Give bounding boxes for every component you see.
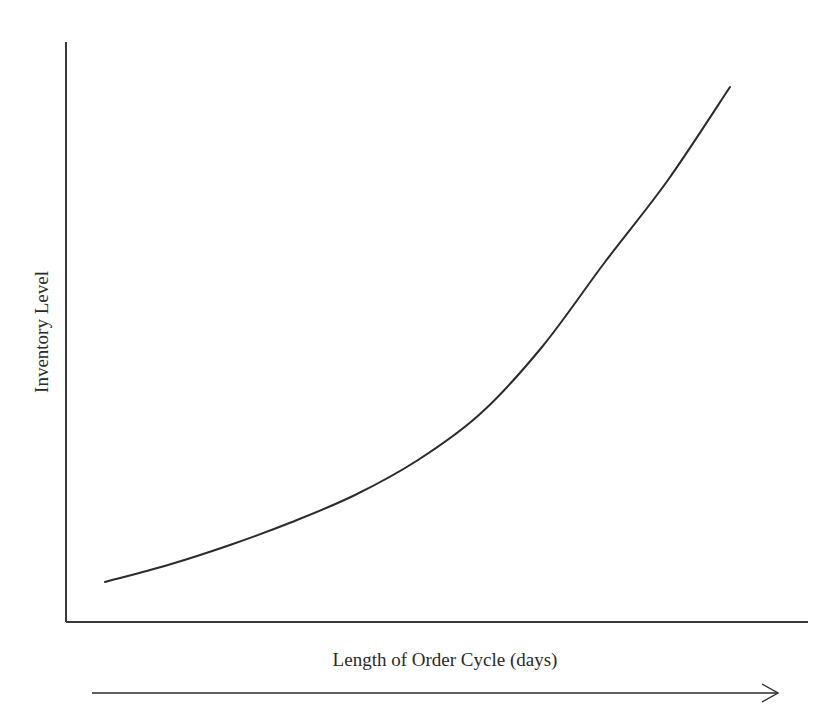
chart [0, 0, 835, 727]
inventory-curve [105, 87, 730, 582]
x-axis-label: Length of Order Cycle (days) [333, 649, 558, 671]
y-axis-label: Inventory Level [31, 271, 53, 393]
